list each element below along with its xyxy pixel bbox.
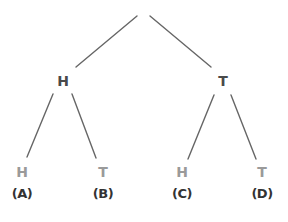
label-c: (C) — [172, 187, 192, 201]
edge-root-h — [76, 16, 137, 67]
leaf-th: H — [176, 165, 188, 179]
leaf-ht: T — [98, 165, 108, 179]
label-a: (A) — [12, 187, 32, 201]
tree-edges — [0, 0, 288, 222]
edge-root-t — [150, 16, 211, 67]
leaf-tt: T — [257, 165, 267, 179]
edge-h-h — [27, 94, 53, 157]
label-b: (B) — [93, 187, 113, 201]
node-t: T — [218, 74, 228, 88]
edge-t-h — [188, 95, 214, 159]
node-h: H — [57, 74, 69, 88]
leaf-hh: H — [16, 165, 28, 179]
edge-h-t — [72, 94, 96, 158]
label-d: (D) — [251, 187, 272, 201]
edge-t-t — [231, 95, 256, 159]
